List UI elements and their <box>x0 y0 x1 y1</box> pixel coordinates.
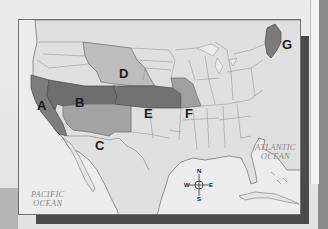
region-label-b: B <box>75 96 84 109</box>
cuba <box>239 192 299 204</box>
pacific-line-2: OCEAN <box>31 199 65 208</box>
region-label-a: A <box>37 99 46 112</box>
bahamas <box>271 172 287 184</box>
right-edge-panel <box>310 0 319 184</box>
region-label-e: E <box>144 107 153 120</box>
frame-shadow-bottom <box>36 215 308 224</box>
region-label-c: C <box>95 139 104 152</box>
compass-rose: N S E W <box>184 168 214 202</box>
atlantic-ocean-label: ATLANTIC OCEAN <box>255 143 296 161</box>
region-label-g: G <box>282 38 292 51</box>
frame-shadow-right <box>300 36 309 224</box>
compass-west: W <box>184 182 190 188</box>
region-e <box>113 86 181 108</box>
us-map <box>19 20 301 215</box>
right-edge-strip <box>318 0 328 229</box>
atlantic-line-2: OCEAN <box>255 152 296 161</box>
compass-east: E <box>209 182 213 188</box>
region-label-d: D <box>119 67 128 80</box>
pacific-ocean-label: PACIFIC OCEAN <box>31 190 65 208</box>
compass-north: N <box>197 168 201 174</box>
map-frame: A B C D E F G PACIFIC OCEAN ATLANTIC OCE… <box>18 19 301 215</box>
compass-south: S <box>197 196 201 202</box>
left-edge-panel <box>0 188 18 229</box>
region-label-f: F <box>185 107 193 120</box>
